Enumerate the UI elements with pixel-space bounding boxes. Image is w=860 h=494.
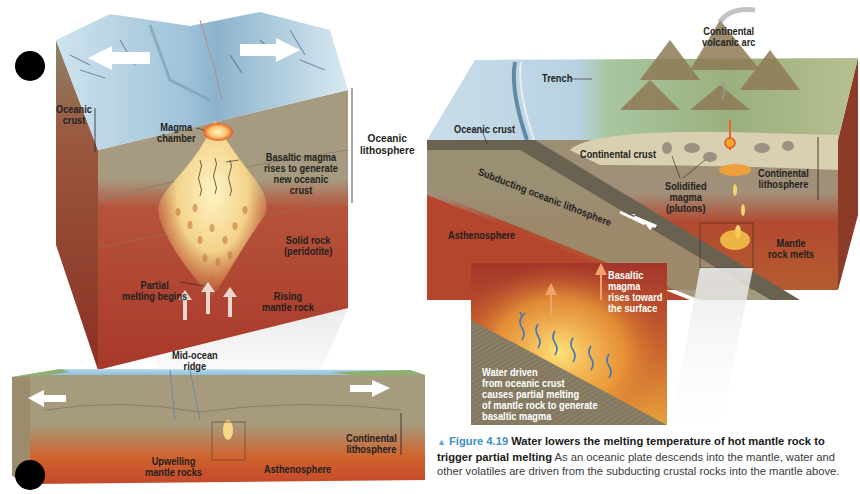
- label-solidified-magma: Solidified magma (plutons): [665, 181, 707, 214]
- label-rising-mantle-rock: Rising mantle rock: [262, 291, 314, 313]
- label-partial-melting: Partial melting begins: [122, 280, 187, 302]
- label-upwelling-mantle-rocks: Upwelling mantle rocks: [145, 456, 202, 478]
- rift-overview-block: [12, 369, 425, 484]
- label-oceanic-crust-right: Oceanic crust: [454, 124, 515, 135]
- label-continental-crust: Continental crust: [580, 149, 656, 160]
- label-water-driven: Water driven from oceanic crust causes p…: [482, 367, 598, 422]
- label-continental-volcanic-arc: Continental volcanic arc: [702, 26, 755, 48]
- label-oceanic-lithosphere: Oceanic lithosphere: [360, 132, 415, 156]
- triangle-marker-icon: ▲: [437, 437, 446, 447]
- diagram-canvas: [0, 0, 860, 494]
- label-asthenosphere-right: Asthenosphere: [448, 230, 515, 241]
- label-basaltic-magma-rises: Basaltic magma rises to generate new oce…: [264, 152, 338, 196]
- label-mid-ocean-ridge: Mid-ocean ridge: [172, 350, 218, 372]
- label-mantle-rock-melts: Mantle rock melts: [768, 238, 814, 260]
- figure-caption: ▲ Figure 4.19 Water lowers the melting t…: [437, 434, 857, 479]
- label-continental-lithosphere-left: Continental lithosphere: [346, 433, 397, 455]
- label-asthenosphere-left: Asthenosphere: [264, 464, 331, 475]
- label-oceanic-crust-left: Oceanic crust: [56, 104, 92, 126]
- label-trench: Trench: [542, 73, 572, 84]
- marker-dot-bottom: [15, 460, 45, 490]
- figure-number: Figure 4.19: [449, 435, 508, 447]
- label-continental-lithosphere-right: Continental lithosphere: [758, 168, 809, 190]
- label-basaltic-magma-rises-toward-surface: Basaltic magma rises toward the surface: [608, 270, 662, 314]
- label-magma-chamber: Magma chamber: [157, 122, 196, 144]
- marker-dot-top: [15, 51, 45, 81]
- label-solid-rock: Solid rock (peridotite): [284, 235, 332, 257]
